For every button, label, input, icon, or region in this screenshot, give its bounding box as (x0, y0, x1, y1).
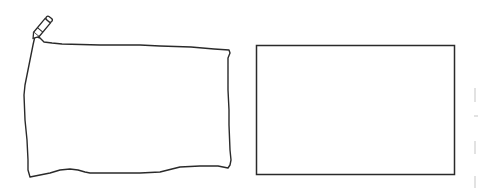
canvas-drawing (0, 0, 480, 190)
partial-shape-edge (474, 88, 478, 188)
pencil-icon (30, 15, 53, 40)
drawing-canvas[interactable] (0, 0, 480, 190)
freehand-rectangle[interactable] (24, 36, 231, 177)
straight-rectangle[interactable] (257, 46, 455, 175)
